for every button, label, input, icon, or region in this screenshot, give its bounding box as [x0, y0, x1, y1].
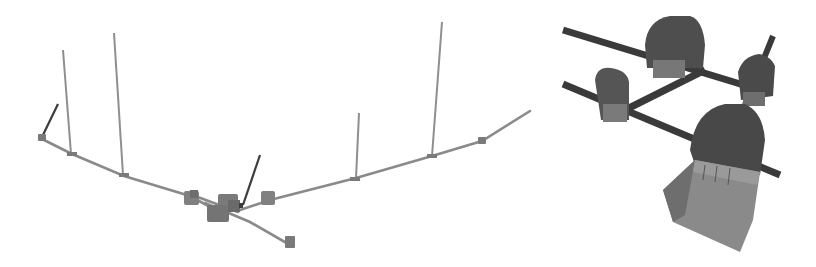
detail-panel	[545, 0, 816, 267]
tunnel-network-overview	[0, 0, 545, 267]
left-chamber	[595, 68, 629, 122]
tunnel-chamber-closeup	[545, 0, 816, 267]
main-tunnels	[42, 111, 530, 245]
large-chamber	[663, 104, 765, 252]
vertical-shafts	[63, 22, 442, 178]
overview-panel	[0, 0, 545, 267]
chamber-cluster	[184, 190, 275, 222]
right-chamber	[738, 54, 775, 106]
shaft-nodes	[38, 134, 486, 248]
